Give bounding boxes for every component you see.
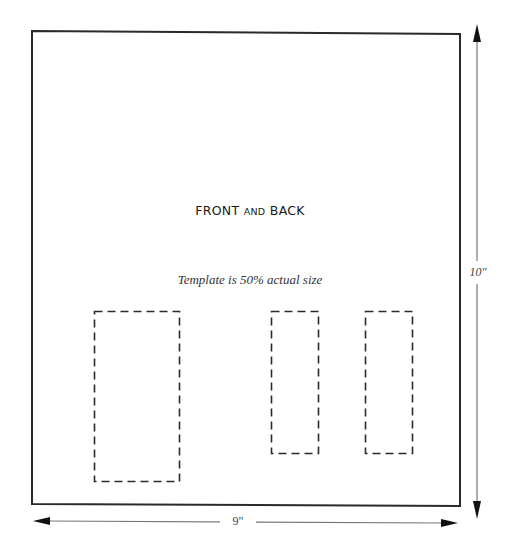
width-dimension-label: 9": [220, 514, 256, 529]
title-back: BACK: [270, 203, 305, 218]
template-title: FRONT AND BACK: [0, 203, 500, 218]
outer-rectangle: [32, 31, 460, 506]
title-connector: AND: [244, 206, 266, 217]
arrowhead-up-icon: [473, 24, 481, 42]
cutout-middle: [272, 312, 319, 454]
arrowhead-left-icon: [33, 517, 50, 525]
cutout-right: [366, 312, 413, 454]
title-front: FRONT: [195, 203, 239, 218]
arrowhead-down-icon: [473, 501, 481, 519]
height-dimension-label: 10": [468, 261, 488, 284]
scale-note: Template is 50% actual size: [0, 272, 500, 288]
arrowhead-right-icon: [441, 519, 458, 527]
cutout-large: [95, 312, 180, 482]
